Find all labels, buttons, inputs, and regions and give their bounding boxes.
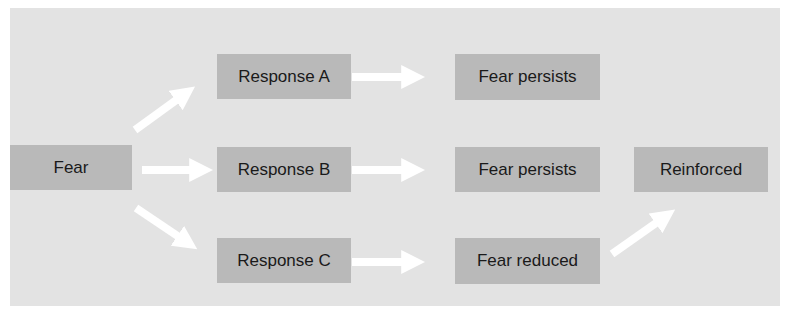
node-label: Reinforced bbox=[660, 160, 742, 180]
node-label: Response A bbox=[238, 67, 330, 87]
node-response-b: Response B bbox=[217, 147, 351, 192]
node-label: Fear reduced bbox=[477, 251, 578, 271]
node-fear-persists-a: Fear persists bbox=[455, 54, 600, 100]
node-label: Fear persists bbox=[478, 67, 576, 87]
node-label: Fear bbox=[54, 158, 89, 178]
node-label: Response B bbox=[238, 160, 331, 180]
node-fear-persists-b: Fear persists bbox=[455, 147, 600, 192]
node-fear: Fear bbox=[10, 145, 132, 190]
node-label: Response C bbox=[237, 251, 331, 271]
node-response-c: Response C bbox=[217, 238, 351, 283]
node-reinforced: Reinforced bbox=[634, 147, 768, 192]
node-response-a: Response A bbox=[217, 54, 351, 99]
node-label: Fear persists bbox=[478, 160, 576, 180]
node-fear-reduced: Fear reduced bbox=[455, 238, 600, 284]
